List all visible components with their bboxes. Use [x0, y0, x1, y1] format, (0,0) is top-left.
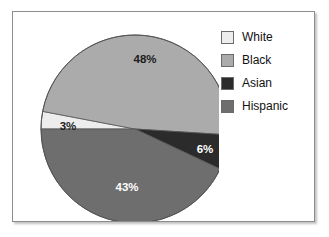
legend-label: Asian	[242, 77, 272, 89]
legend-label: White	[242, 31, 273, 43]
pie-label-white: 3%	[60, 120, 77, 132]
legend-swatch-asian	[221, 77, 234, 90]
legend-item-white[interactable]: White	[221, 26, 313, 48]
legend-item-black[interactable]: Black	[221, 49, 313, 71]
legend-item-asian[interactable]: Asian	[221, 72, 313, 94]
pie-chart-figure: 3%48%6%43% WhiteBlackAsianHispanic	[0, 0, 329, 237]
plot-area: 3%48%6%43% WhiteBlackAsianHispanic	[13, 12, 314, 221]
legend-item-hispanic[interactable]: Hispanic	[221, 95, 313, 117]
legend-swatch-hispanic	[221, 100, 234, 113]
chart-legend: WhiteBlackAsianHispanic	[221, 26, 313, 118]
legend-label: Black	[242, 54, 271, 66]
legend-swatch-white	[221, 31, 234, 44]
chart-panel: 3%48%6%43% WhiteBlackAsianHispanic	[12, 11, 315, 222]
pie-label-black: 48%	[133, 53, 156, 65]
legend-swatch-black	[221, 54, 234, 67]
pie-label-hispanic: 43%	[115, 181, 138, 193]
pie-label-asian: 6%	[197, 143, 214, 155]
pie-chart: 3%48%6%43%	[19, 12, 219, 221]
legend-label: Hispanic	[242, 100, 288, 112]
